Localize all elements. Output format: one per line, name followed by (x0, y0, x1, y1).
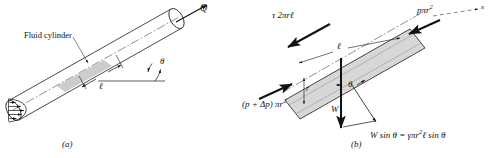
shear-force-arrow (288, 24, 330, 47)
weight-component-arrow (352, 85, 376, 122)
weight-component-label: W sin θ = γπr2ℓ sin θ (370, 129, 446, 140)
control-volume (285, 29, 425, 119)
pressure-downstream-base: pπr (417, 5, 430, 15)
flow-rate-label: Q (200, 3, 207, 13)
shear-force-label: τ 2πrℓ (272, 11, 294, 20)
panel-b-group (259, 9, 478, 128)
x-axis (433, 9, 478, 16)
weight-component-closure (343, 121, 375, 127)
panel-a-group (3, 5, 207, 123)
x-axis-label: x (481, 4, 484, 11)
radius-label-b: r (306, 85, 309, 93)
weight-label: W (331, 105, 339, 114)
length-label-b: ℓ (337, 42, 341, 51)
pressure-downstream-arrow (409, 20, 440, 34)
fluid-cylinder-element (57, 60, 112, 92)
pressure-upstream-arrow (259, 84, 292, 99)
pressure-downstream-label: pπr2 (417, 4, 433, 15)
fluid-cylinder-leader (73, 37, 88, 63)
weight-component-lhs: W sin θ = γπr (370, 130, 419, 140)
fluid-cylinder-label: Fluid cylinder (24, 31, 72, 40)
angle-label-a: θ (160, 57, 164, 66)
pressure-upstream-label: (p + Δp) πr2 (242, 98, 286, 109)
panel-a-caption: (a) (62, 140, 73, 149)
pressure-downstream-exponent: 2 (430, 3, 433, 10)
panel-b-caption: (b) (351, 140, 362, 149)
length-label-a: ℓ (99, 82, 103, 91)
weight-component-rhs: ℓ sin θ (422, 130, 445, 140)
pressure-upstream-base: (p + Δp) πr (242, 99, 283, 109)
angle-label-b: θ (348, 80, 352, 89)
pressure-upstream-exponent: 2 (283, 97, 286, 104)
